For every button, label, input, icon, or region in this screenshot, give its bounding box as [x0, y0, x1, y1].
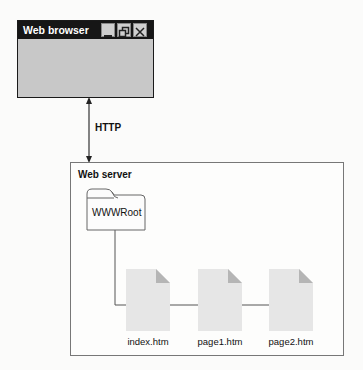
file-label: page1.htm [190, 336, 250, 347]
file-icon [269, 269, 313, 331]
file-label: index.htm [118, 336, 178, 347]
file-page1[interactable] [198, 269, 242, 335]
file-icon [198, 269, 242, 331]
file-index[interactable] [126, 269, 170, 335]
file-page2[interactable] [269, 269, 313, 335]
file-label: page2.htm [261, 336, 321, 347]
wwwroot-folder[interactable]: WWWRoot [86, 186, 148, 232]
folder-label: WWWRoot [92, 207, 141, 218]
file-icon [126, 269, 170, 331]
